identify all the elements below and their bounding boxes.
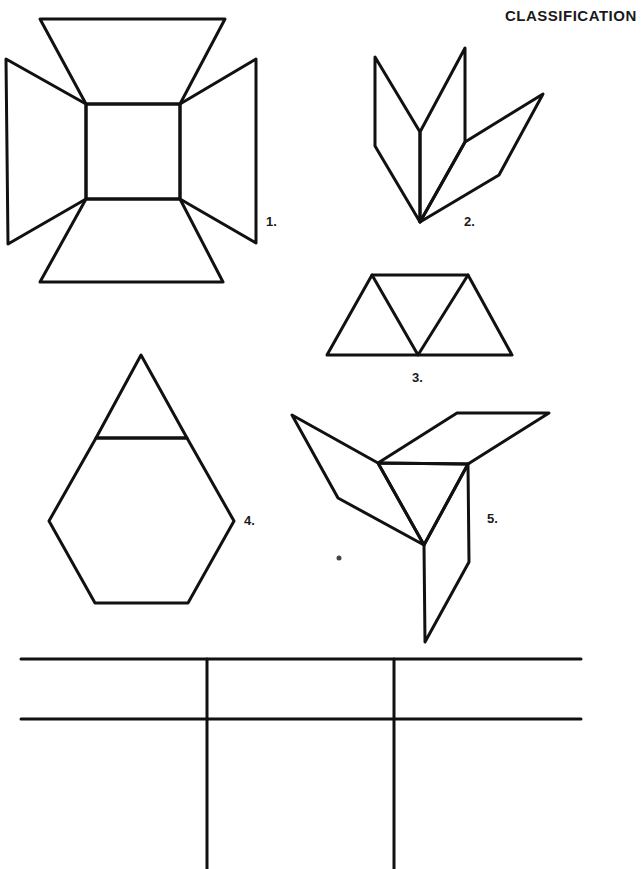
figure-4-hexagon: [49, 438, 234, 603]
figure-4-triangle: [96, 355, 187, 438]
figure-5-label: 5.: [487, 511, 498, 526]
ink-smudge: [337, 556, 342, 561]
figure-3-inner-lines: [372, 275, 468, 355]
classification-table: [21, 659, 581, 869]
figure-1-label: 1.: [266, 214, 277, 229]
figure-4-triangle-hexagon: [49, 355, 234, 603]
figure-2-label: 2.: [464, 214, 475, 229]
figure-3-label: 3.: [412, 370, 423, 385]
figure-2-rhombus-left: [375, 57, 420, 222]
figure-5-triangle-rhombuses: [292, 413, 549, 642]
figure-5-rhombus-top: [378, 413, 549, 464]
figure-1-square-trapezoids: [6, 19, 256, 282]
figure-1-square: [86, 104, 180, 199]
figure-1-left-trapezoid: [6, 59, 86, 244]
figure-2-rhombus-right: [420, 94, 543, 222]
figure-4-label: 4.: [244, 513, 255, 528]
figure-3-triangles: [327, 275, 512, 355]
figure-1-top-trapezoid: [40, 19, 225, 104]
figure-5-rhombus-bottom: [424, 464, 469, 642]
worksheet-drawing: [0, 0, 642, 869]
figure-3-outline: [327, 275, 512, 355]
figure-2-rhombuses: [375, 48, 543, 222]
figure-2-rhombus-middle: [420, 48, 465, 222]
figure-5-triangle: [378, 463, 468, 545]
figure-1-bottom-trapezoid: [40, 199, 223, 282]
figure-1-right-trapezoid: [180, 59, 256, 243]
figure-5-rhombus-left: [292, 415, 424, 545]
